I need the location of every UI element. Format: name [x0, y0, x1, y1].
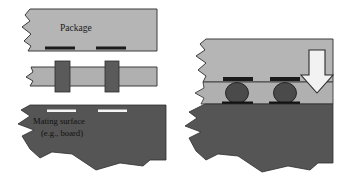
board-pad-right: [98, 110, 127, 113]
mating-surface-label-line2: (e.g., board): [41, 128, 83, 138]
package-pad-right: [96, 47, 126, 50]
mating-surface-label-line1: Mating surface: [33, 116, 85, 126]
solder-ball-left: [226, 83, 249, 104]
cross-section-figure: Package Mating surface (e.g., board): [0, 0, 346, 181]
board-pad-left: [47, 110, 76, 113]
interposer-body: [26, 67, 157, 86]
package-pad-right-assembled: [270, 77, 300, 81]
connector-post-right: [105, 61, 119, 92]
package-pad-left: [45, 47, 75, 50]
package-pad-left-assembled: [223, 77, 253, 81]
package-label: Package: [60, 23, 92, 33]
solder-ball-right: [274, 83, 297, 104]
connector-post-left: [55, 61, 70, 92]
assembled-view: [185, 39, 333, 172]
diagram-canvas: Package Mating surface (e.g., board): [0, 0, 346, 181]
